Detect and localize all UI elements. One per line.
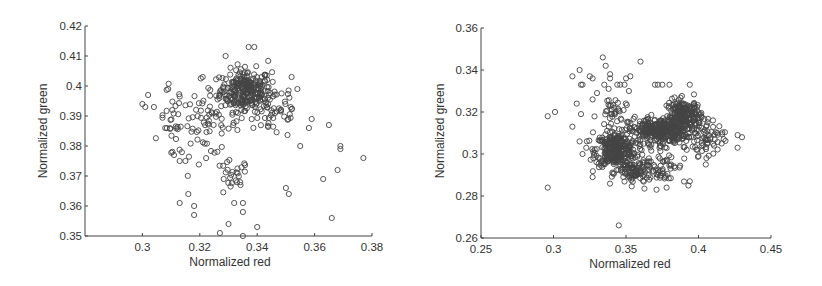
data-point bbox=[651, 162, 656, 167]
data-point bbox=[198, 108, 203, 113]
y-axis-label-right: Normalized green bbox=[433, 84, 447, 179]
data-point bbox=[228, 65, 233, 70]
plot-area-left bbox=[140, 44, 366, 238]
y-tick-label: 0.41 bbox=[60, 50, 82, 62]
x-tick-label: 0.36 bbox=[303, 241, 325, 253]
data-point bbox=[186, 154, 191, 159]
data-point bbox=[252, 44, 257, 49]
data-point bbox=[590, 169, 595, 174]
data-point bbox=[254, 64, 259, 69]
data-point bbox=[711, 151, 716, 156]
data-point bbox=[584, 145, 589, 150]
data-point bbox=[242, 64, 247, 69]
data-point bbox=[658, 149, 663, 154]
data-point bbox=[221, 176, 226, 181]
data-point bbox=[217, 230, 222, 235]
data-point bbox=[189, 129, 194, 134]
data-point bbox=[295, 86, 300, 91]
x-tick-label: 0.4 bbox=[691, 243, 708, 255]
data-point bbox=[188, 141, 193, 146]
data-point bbox=[361, 155, 366, 160]
data-point bbox=[169, 133, 174, 138]
data-point bbox=[682, 156, 687, 161]
y-tick-label: 0.28 bbox=[456, 190, 478, 202]
data-point bbox=[642, 186, 647, 191]
data-point bbox=[602, 82, 607, 87]
data-point bbox=[204, 130, 209, 135]
data-point bbox=[600, 55, 605, 60]
data-point bbox=[279, 91, 284, 96]
y-tick-label: 0.36 bbox=[60, 200, 82, 212]
data-point bbox=[607, 181, 612, 186]
data-point bbox=[246, 44, 251, 49]
data-point bbox=[717, 124, 722, 129]
data-point bbox=[309, 116, 314, 121]
data-point bbox=[217, 163, 222, 168]
y-tick-label: 0.39 bbox=[60, 110, 82, 122]
data-point bbox=[687, 82, 692, 87]
x-tick-label: 0.34 bbox=[246, 241, 269, 253]
data-point bbox=[326, 122, 331, 127]
data-point bbox=[570, 74, 575, 79]
data-point bbox=[242, 169, 247, 174]
data-point bbox=[735, 145, 740, 150]
y-tick-label: 0.32 bbox=[456, 106, 478, 118]
y-tick-label: 0.3 bbox=[462, 148, 478, 160]
data-point bbox=[219, 144, 224, 149]
x-tick-label: 0.32 bbox=[189, 241, 211, 253]
data-point bbox=[590, 130, 595, 135]
data-point bbox=[143, 104, 148, 109]
scatter-plot-right: 0.250.30.350.40.450.260.280.30.320.340.3… bbox=[433, 22, 782, 271]
data-point bbox=[151, 104, 156, 109]
data-point bbox=[176, 101, 181, 106]
data-point bbox=[580, 151, 585, 156]
data-point bbox=[592, 114, 597, 119]
data-point bbox=[173, 136, 178, 141]
data-point bbox=[240, 200, 245, 205]
data-point bbox=[691, 92, 696, 97]
data-point bbox=[287, 112, 292, 117]
data-point bbox=[185, 124, 190, 129]
data-point bbox=[196, 162, 201, 167]
data-point bbox=[166, 86, 171, 91]
data-point bbox=[170, 99, 175, 104]
data-point bbox=[590, 97, 595, 102]
data-point bbox=[166, 81, 171, 86]
data-point bbox=[711, 124, 716, 129]
data-point bbox=[283, 185, 288, 190]
data-point bbox=[223, 53, 228, 58]
data-point bbox=[545, 185, 550, 190]
x-axis-label-left: Normalized red bbox=[189, 255, 270, 269]
data-point bbox=[286, 88, 291, 93]
data-point bbox=[335, 167, 340, 172]
data-point bbox=[239, 116, 244, 121]
data-point bbox=[153, 136, 158, 141]
data-point bbox=[552, 109, 557, 114]
data-point bbox=[164, 108, 169, 113]
data-point bbox=[574, 101, 579, 106]
data-point bbox=[220, 76, 225, 81]
data-point bbox=[628, 74, 633, 79]
data-point bbox=[223, 77, 228, 82]
data-point bbox=[603, 63, 608, 68]
data-point bbox=[739, 135, 744, 140]
data-point bbox=[249, 117, 254, 122]
y-tick-label: 0.34 bbox=[456, 64, 479, 76]
data-point bbox=[204, 156, 209, 161]
data-point bbox=[577, 139, 582, 144]
data-point bbox=[606, 86, 611, 91]
data-point bbox=[623, 101, 628, 106]
y-tick-label: 0.38 bbox=[60, 140, 82, 152]
data-point bbox=[710, 118, 715, 123]
data-point bbox=[226, 221, 231, 226]
data-point bbox=[681, 179, 686, 184]
y-tick-label: 0.37 bbox=[60, 170, 82, 182]
data-point bbox=[208, 93, 213, 98]
data-point bbox=[578, 112, 583, 117]
data-point bbox=[266, 58, 271, 63]
x-tick-label: 0.35 bbox=[615, 243, 637, 255]
data-point bbox=[667, 82, 672, 87]
scatter-plot-left: 0.30.320.340.360.380.350.360.370.380.390… bbox=[36, 20, 383, 269]
data-point bbox=[194, 107, 199, 112]
data-point bbox=[626, 88, 631, 93]
